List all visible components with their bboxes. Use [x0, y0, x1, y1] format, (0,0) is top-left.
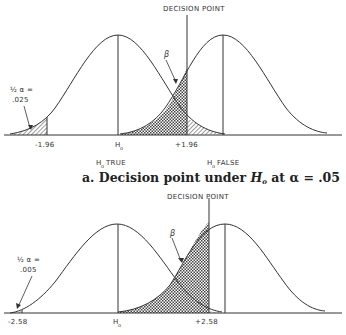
h0-false-sub: o: [212, 163, 215, 169]
panel-a: DECISION POINT β ½ α = .025 -1.96 H o +1…: [4, 5, 342, 186]
beta-region: [118, 222, 209, 313]
caption-a: a. Decision point under Ho at α = .05: [82, 170, 340, 186]
panel-b: DECISION POINT β ½ α = .005 -2.58 H o +2…: [4, 193, 342, 328]
beta-arrow: [166, 60, 176, 82]
tick-right-label: +2.58: [195, 318, 218, 326]
decision-point-label: DECISION POINT: [167, 193, 229, 201]
h0-false-word: FALSE: [217, 159, 239, 167]
hypothesis-test-diagram: DECISION POINT β ½ α = .025 -1.96 H o +1…: [0, 0, 346, 335]
alpha-arrow: [24, 106, 30, 128]
beta-label: β: [169, 229, 175, 238]
alpha-label-line1: ½ α =: [17, 256, 40, 264]
beta-arrow: [172, 238, 181, 261]
alternative-distribution-curve: [118, 224, 325, 312]
tick-right-label: +1.96: [175, 141, 198, 149]
alpha-arrowhead: [16, 303, 21, 309]
beta-label: β: [163, 50, 169, 59]
decision-point-label: DECISION POINT: [163, 5, 225, 13]
tick-center-sub: o: [120, 145, 123, 151]
alpha-label-line2: .005: [20, 266, 37, 274]
alpha-label-line2: .025: [12, 96, 29, 104]
beta-arrowhead: [173, 79, 178, 84]
tick-center-sub: o: [118, 322, 121, 328]
h0-true-sub: o: [101, 163, 104, 169]
alpha-region-left: [10, 118, 47, 135]
h0-true-word: TRUE: [105, 159, 126, 167]
alpha-arrow: [18, 276, 32, 307]
tick-left-label: -1.96: [35, 141, 55, 149]
alpha-label-line1: ½ α =: [10, 86, 33, 94]
tick-left-label: -2.58: [8, 318, 28, 326]
